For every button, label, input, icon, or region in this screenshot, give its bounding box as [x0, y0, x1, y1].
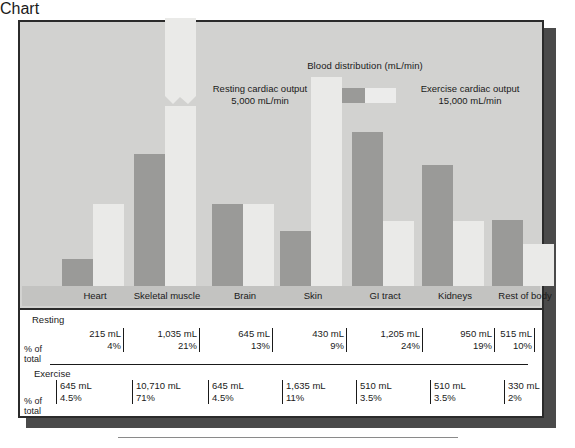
resting-volume-gi-tract: 1,205 mL: [350, 328, 420, 340]
resting-percent-skeletal-muscle: 21%: [127, 340, 197, 352]
plot-area: [22, 24, 540, 286]
resting-cell-gi-tract: 1,205 mL24%: [350, 328, 423, 352]
bar-group: [212, 18, 278, 286]
bar-exercise-skin: [311, 77, 342, 286]
resting-volume-rest-of-body: 515 mL: [462, 328, 532, 340]
bar-resting-kidneys: [422, 165, 453, 286]
bar-group: [134, 18, 200, 286]
resting-volume-skin: 430 mL: [274, 328, 344, 340]
exercise-percent-skin: 11%: [286, 392, 358, 404]
bar-exercise-gi-tract: [383, 221, 414, 286]
bar-group: [280, 18, 346, 286]
exercise-percent-skeletal-muscle: 71%: [136, 392, 208, 404]
chart-panel: Blood distribution (mL/min) Resting card…: [18, 20, 544, 310]
bar-exercise-skeletal-muscle: [165, 18, 196, 286]
bar-groups: [22, 18, 540, 286]
exercise-volume-heart: 645 mL: [60, 380, 132, 392]
exercise-volume-skin: 1,635 mL: [286, 380, 358, 392]
bottom-horizontal-rule: [118, 437, 458, 438]
exercise-percent-brain: 4.5%: [212, 392, 284, 404]
data-table: Resting % oftotal Exercise % oftotal 215…: [18, 310, 544, 418]
resting-volume-brain: 645 mL: [200, 328, 270, 340]
exercise-percent-gi-tract: 3.5%: [360, 392, 432, 404]
exercise-cell-gi-tract: 510 mL3.5%: [356, 380, 432, 404]
bar-resting-gi-tract: [352, 132, 383, 286]
resting-section-title: Resting: [32, 314, 64, 325]
bar-group: [352, 18, 418, 286]
resting-percent-rest-of-body: 10%: [462, 340, 532, 352]
exercise-percent-kidneys: 3.5%: [434, 392, 506, 404]
resting-cell-rest-of-body: 515 mL10%: [462, 328, 535, 352]
exercise-section-title: Exercise: [34, 368, 70, 379]
resting-percent-heart: 4%: [51, 340, 121, 352]
axis-break-mark: [165, 96, 196, 106]
resting-percent-skin: 9%: [274, 340, 344, 352]
exercise-cell-brain: 645 mL4.5%: [208, 380, 284, 404]
exercise-volume-gi-tract: 510 mL: [360, 380, 432, 392]
category-label-band: HeartSkeletal muscleBrainSkinGI tractKid…: [22, 286, 540, 306]
exercise-percent-label: % oftotal: [24, 396, 42, 416]
resting-percent-label: % oftotal: [24, 344, 42, 364]
bar-resting-rest-of-body: [492, 220, 523, 286]
exercise-volume-skeletal-muscle: 10,710 mL: [136, 380, 208, 392]
blood-distribution-figure: Blood distribution (mL/min) Resting card…: [18, 20, 548, 420]
exercise-volume-brain: 645 mL: [212, 380, 284, 392]
resting-cell-brain: 645 mL13%: [200, 328, 273, 352]
bar-exercise-heart: [93, 204, 124, 286]
resting-cell-skeletal-muscle: 1,035 mL21%: [127, 328, 200, 352]
bar-resting-brain: [212, 204, 243, 286]
bar-resting-skin: [280, 231, 311, 286]
bar-exercise-kidneys: [453, 221, 484, 286]
table-divider-rule: [50, 364, 528, 365]
exercise-cell-heart: 645 mL4.5%: [56, 380, 132, 404]
resting-cell-heart: 215 mL4%: [51, 328, 124, 352]
exercise-cell-skeletal-muscle: 10,710 mL71%: [132, 380, 208, 404]
bar-exercise-rest-of-body: [523, 244, 554, 286]
resting-cell-skin: 430 mL9%: [274, 328, 347, 352]
resting-percent-brain: 13%: [200, 340, 270, 352]
exercise-percent-heart: 4.5%: [60, 392, 132, 404]
bar-group: [422, 18, 488, 286]
bar-exercise-brain: [243, 204, 274, 286]
category-label-rest-of-body: Rest of body: [478, 289, 572, 303]
exercise-cell-kidneys: 510 mL3.5%: [430, 380, 506, 404]
exercise-percent-rest-of-body: 2%: [508, 392, 575, 404]
resting-volume-heart: 215 mL: [51, 328, 121, 340]
resting-volume-skeletal-muscle: 1,035 mL: [127, 328, 197, 340]
exercise-volume-kidneys: 510 mL: [434, 380, 506, 392]
resting-percent-gi-tract: 24%: [350, 340, 420, 352]
exercise-volume-rest-of-body: 330 mL: [508, 380, 575, 392]
exercise-cell-skin: 1,635 mL11%: [282, 380, 358, 404]
bar-group: [62, 18, 128, 286]
bar-group: [492, 18, 558, 286]
exercise-cell-rest-of-body: 330 mL2%: [504, 380, 575, 404]
bar-resting-heart: [62, 259, 93, 286]
bar-resting-skeletal-muscle: [134, 154, 165, 286]
